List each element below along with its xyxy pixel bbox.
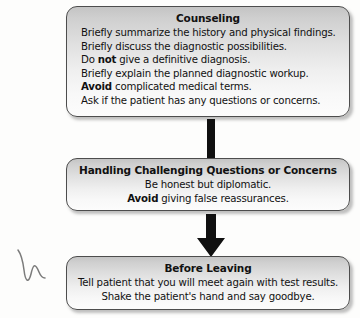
flow-node-line: Shake the patient's hand and say goodbye…	[73, 290, 343, 304]
flow-node-handling: Handling Challenging Questions or Concer…	[66, 158, 350, 211]
body-text: Briefly explain the planned diagnostic w…	[81, 68, 309, 79]
connector-bar-counseling-to-handling	[207, 119, 215, 159]
body-text: give a definitive diagnosis.	[116, 54, 250, 65]
flow-node-body: Tell patient that you will meet again wi…	[73, 276, 343, 303]
body-text: Do	[81, 54, 98, 65]
flow-node-line: Do not give a definitive diagnosis.	[81, 53, 343, 67]
flow-node-counseling: Counseling Briefly summarize the history…	[66, 6, 350, 117]
flow-node-title: Counseling	[73, 11, 343, 25]
flow-node-title: Before Leaving	[73, 261, 343, 275]
page-canvas: Counseling Briefly summarize the history…	[0, 0, 360, 318]
body-text: Briefly summarize the history and physic…	[81, 27, 336, 38]
flow-node-before-leaving: Before Leaving Tell patient that you wil…	[66, 256, 350, 310]
flow-node-line: Ask if the patient has any questions or …	[81, 94, 343, 108]
flow-node-body: Briefly summarize the history and physic…	[73, 26, 343, 108]
body-text: Shake the patient's hand and say goodbye…	[101, 291, 314, 302]
connector-down-arrow-handling-to-before-leaving	[191, 214, 231, 258]
handwritten-margin-mark-icon	[12, 244, 58, 290]
flow-node-line: Avoid complicated medical terms.	[81, 80, 343, 94]
body-text: giving false reassurances.	[158, 193, 288, 204]
flow-node-line: Tell patient that you will meet again wi…	[73, 276, 343, 290]
emphasis-text: not	[98, 54, 117, 65]
flow-node-line: Be honest but diplomatic.	[73, 178, 343, 192]
emphasis-text: Avoid	[81, 81, 112, 92]
body-text: Briefly discuss the diagnostic possibili…	[81, 41, 287, 52]
flow-node-line: Briefly summarize the history and physic…	[81, 26, 343, 40]
flow-node-line: Briefly discuss the diagnostic possibili…	[81, 40, 343, 54]
flow-node-line: Avoid giving false reassurances.	[73, 192, 343, 206]
body-text: Ask if the patient has any questions or …	[81, 95, 320, 106]
body-text: Tell patient that you will meet again wi…	[78, 277, 338, 288]
flow-node-title: Handling Challenging Questions or Concer…	[73, 163, 343, 177]
body-text: Be honest but diplomatic.	[145, 179, 271, 190]
body-text: complicated medical terms.	[112, 81, 252, 92]
flow-node-line: Briefly explain the planned diagnostic w…	[81, 67, 343, 81]
flow-node-body: Be honest but diplomatic.Avoid giving fa…	[73, 178, 343, 205]
emphasis-text: Avoid	[127, 193, 158, 204]
